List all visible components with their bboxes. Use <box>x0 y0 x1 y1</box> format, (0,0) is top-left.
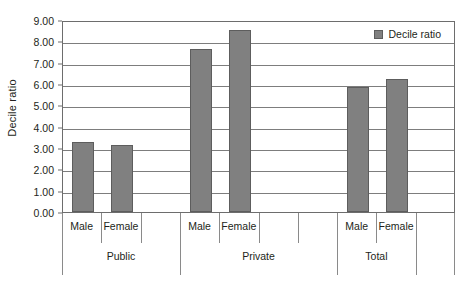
chart-figure: Decile ratio 0.001.002.003.004.005.006.0… <box>0 0 468 287</box>
group-separator <box>337 243 338 275</box>
category-label: Male <box>188 220 211 232</box>
legend: Decile ratio <box>371 27 444 41</box>
category-label: Female <box>103 220 138 232</box>
y-tick-label: 3.00 <box>34 143 54 155</box>
group-label: Private <box>242 250 275 262</box>
y-tick-label: 7.00 <box>34 58 54 70</box>
bar-total-female <box>386 79 408 212</box>
category-separator <box>141 213 142 243</box>
category-label: Female <box>221 220 256 232</box>
y-axis-title-text: Decile ratio <box>6 79 18 136</box>
group-label: Total <box>365 250 387 262</box>
category-separator <box>259 213 260 243</box>
y-tick-label: 8.00 <box>34 36 54 48</box>
y-tick-label: 5.00 <box>34 100 54 112</box>
category-label: Male <box>345 220 368 232</box>
bar-private-male <box>190 49 212 212</box>
group-separator <box>62 243 63 275</box>
category-separator <box>62 213 63 243</box>
category-separator <box>101 213 102 243</box>
gridline <box>63 65 454 66</box>
category-separator <box>376 213 377 243</box>
y-axis-ticks: 0.001.002.003.004.005.006.007.008.009.00 <box>22 21 58 213</box>
bar-public-male <box>72 142 94 212</box>
bar-public-female <box>111 145 133 212</box>
group-label: Public <box>107 250 136 262</box>
category-separator <box>298 213 299 243</box>
legend-swatch-decile-ratio <box>374 30 383 39</box>
category-separator <box>337 213 338 243</box>
category-label: Female <box>379 220 414 232</box>
group-separator <box>454 243 455 275</box>
plot-area: Decile ratio <box>62 21 455 213</box>
bar-total-male <box>347 87 369 212</box>
category-separator <box>454 213 455 243</box>
y-tick-label: 9.00 <box>34 15 54 27</box>
category-axis: MaleFemaleMaleFemaleMaleFemale <box>62 213 455 243</box>
category-separator <box>180 213 181 243</box>
category-separator <box>416 213 417 243</box>
gridline <box>63 43 454 44</box>
group-separator <box>416 243 417 275</box>
y-tick-label: 4.00 <box>34 122 54 134</box>
y-tick-label: 0.00 <box>34 207 54 219</box>
y-tick-label: 1.00 <box>34 186 54 198</box>
category-separator <box>219 213 220 243</box>
y-axis-title: Decile ratio <box>2 0 22 215</box>
bar-private-female <box>229 30 251 212</box>
group-axis: PublicPrivateTotal <box>62 243 455 275</box>
category-label: Male <box>70 220 93 232</box>
y-tick-label: 2.00 <box>34 164 54 176</box>
y-tick-label: 6.00 <box>34 79 54 91</box>
group-separator <box>180 243 181 275</box>
legend-label-decile-ratio: Decile ratio <box>388 28 441 40</box>
